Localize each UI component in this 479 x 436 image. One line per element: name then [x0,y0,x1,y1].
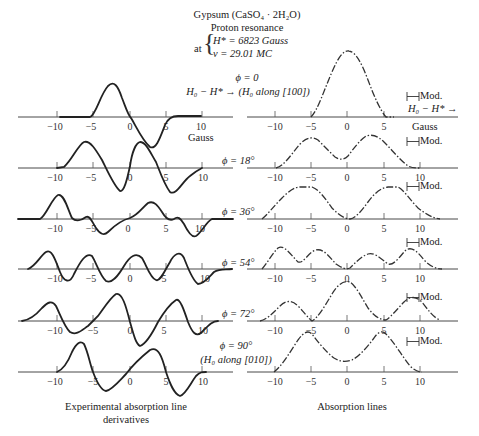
svg-text:5: 5 [382,121,387,132]
axes [18,117,458,372]
svg-text:10: 10 [415,376,425,387]
derivative-curve-phi-90 [57,342,206,396]
svg-text:−10: −10 [267,121,283,132]
absorption-curves [260,51,442,372]
svg-text:10: 10 [415,223,425,234]
tick-marks [57,111,420,372]
svg-text:0: 0 [345,273,350,284]
svg-text:5: 5 [162,325,167,336]
svg-text:0: 0 [345,223,350,234]
svg-text:−5: −5 [86,273,97,284]
svg-text:−5: −5 [306,223,317,234]
svg-text:−10: −10 [47,325,63,336]
svg-text:−10: −10 [47,121,63,132]
svg-text:10: 10 [196,121,206,132]
svg-text:0: 0 [345,121,350,132]
svg-text:−10: −10 [47,376,63,387]
svg-text:0: 0 [128,121,133,132]
svg-text:−10: −10 [267,376,283,387]
svg-text:5: 5 [382,223,387,234]
derivative-curve-phi-0 [60,84,201,148]
svg-text:−10: −10 [267,273,283,284]
svg-text:10: 10 [415,273,425,284]
svg-text:10: 10 [415,325,425,336]
svg-text:−10: −10 [267,325,283,336]
svg-text:−5: −5 [306,325,317,336]
svg-text:−10: −10 [47,223,63,234]
absorption-curve-phi-90 [274,332,422,372]
svg-text:−10: −10 [267,223,283,234]
absorption-curve-phi-0 [311,51,394,117]
svg-text:0: 0 [345,376,350,387]
svg-text:5: 5 [382,172,387,183]
svg-text:−5: −5 [306,121,317,132]
svg-text:−5: −5 [86,121,97,132]
figure-canvas: −10−50510 −10−50510 −10−50510 −10−50510 … [0,0,479,436]
svg-text:5: 5 [164,223,169,234]
derivative-curve-phi-18 [57,142,202,193]
svg-text:−5: −5 [306,376,317,387]
derivative-curve-phi-72 [22,294,218,346]
svg-text:−5: −5 [88,325,99,336]
svg-text:10: 10 [415,172,425,183]
svg-text:0: 0 [126,223,131,234]
svg-text:0: 0 [345,325,350,336]
svg-text:−5: −5 [306,172,317,183]
svg-text:0: 0 [128,273,133,284]
svg-text:5: 5 [382,273,387,284]
absorption-curve-phi-72 [260,282,440,322]
svg-text:5: 5 [382,376,387,387]
svg-text:−5: −5 [306,273,317,284]
svg-text:10: 10 [198,172,208,183]
svg-text:10: 10 [198,376,208,387]
svg-text:−10: −10 [47,172,63,183]
absorption-curve-phi-18 [276,135,420,168]
absorption-curve-phi-54 [262,247,442,269]
svg-text:0: 0 [345,172,350,183]
svg-text:−5: −5 [86,172,97,183]
absorption-curve-phi-36 [262,187,440,219]
svg-text:−10: −10 [267,172,283,183]
svg-text:0: 0 [128,376,133,387]
